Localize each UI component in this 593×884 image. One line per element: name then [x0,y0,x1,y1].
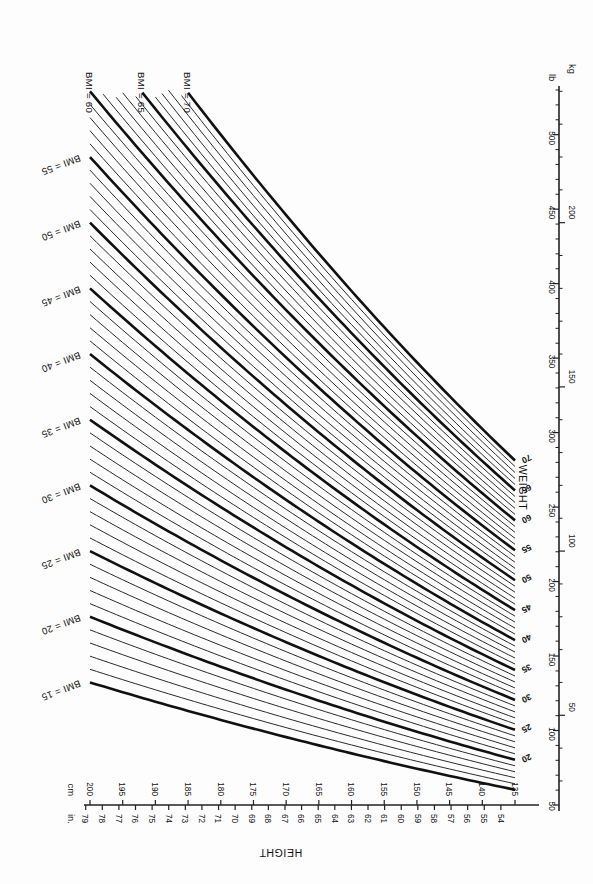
height-tick-label-cm: 140 [477,782,486,796]
height-tick-label-cm: 200 [85,782,94,796]
height-tick-label-in: 62 [363,814,372,824]
weight-tick-label-kg: 150 [567,370,576,384]
bmi-isolines-group [90,90,515,789]
height-tick-label-cm: 180 [216,782,225,796]
bmi-inline-label: BMI = 15 [40,678,82,703]
weight-tick-label-lb: 400 [547,280,556,294]
bmi-inline-label: BMI = 45 [40,284,82,309]
bmi-inline-label: BMI = 50 [40,218,82,243]
height-tick-label-cm: 145 [444,782,453,796]
bmi-isoline [90,249,515,592]
weight-tick-label-kg: 50 [567,703,576,713]
bmi-end-label: 35 [520,662,533,675]
weight-unit-lb: lb [547,74,558,81]
bmi-inline-label: BMI = 55 [40,153,82,178]
bmi-inline-label: BMI = 30 [40,481,82,506]
height-tick-label-cm: 175 [248,782,257,796]
height-tick-label-in: 59 [413,814,422,824]
bmi-isoline [90,446,515,682]
height-tick-label-cm: 190 [150,782,159,796]
height-tick-label-cm: 150 [412,782,421,796]
bmi-isoline [90,131,515,539]
weight-tick-label-lb: 350 [547,355,556,369]
bmi-end-label: 45 [520,602,533,615]
height-tick-label-in: 78 [97,814,106,824]
height-tick-label-in: 61 [379,814,388,824]
bmi-inline-label: BMI = 25 [40,547,82,572]
weight-tick-label-lb: 150 [547,653,556,667]
bmi-end-label: 20 [520,752,533,765]
weight-tick-label-kg: 200 [567,206,576,220]
height-tick-label-in: 55 [479,814,488,824]
bmi-isoline [188,93,515,461]
weight-tick-label-lb: 100 [547,727,556,741]
weight-tick-label-kg: 100 [567,534,576,548]
height-tick-label-in: 69 [247,814,256,824]
weight-tick-label-lb: 500 [547,131,556,145]
bmi-nomogram-figure: 2025303540455055606570 79787776757473727… [0,0,593,884]
bmi-isoline [90,590,515,747]
bmi-end-label: 25 [520,722,533,735]
bmi-isoline [90,315,515,622]
height-tick-label-in: 57 [446,814,455,824]
weight-tick-label-lb: 50 [547,802,556,812]
height-tick-label-cm: 195 [117,782,126,796]
height-tick-label-in: 74 [164,814,173,824]
height-tick-label-in: 77 [114,814,123,824]
height-tick-label-in: 58 [429,814,438,824]
bmi-end-label: 30 [520,692,533,705]
height-tick-label-in: 76 [130,814,139,824]
weight-tick-label-lb: 250 [547,504,556,518]
bmi-isoline [155,97,515,484]
bmi-end-label: 55 [520,542,533,555]
height-tick-label-in: 60 [396,814,405,824]
height-tick-label-in: 63 [346,814,355,824]
height-tick-label-in: 66 [296,814,305,824]
height-tick-label-in: 75 [147,814,156,824]
height-tick-label-cm: 185 [183,782,192,796]
bmi-end-label: 60 [520,512,533,525]
weight-tick-label-lb: 450 [547,206,556,220]
height-tick-label-in: 65 [313,814,322,824]
height-tick-label-in: 71 [213,814,222,824]
weight-axis-name: WEIGHT [517,465,529,511]
height-tick-label-cm: 165 [314,782,323,796]
weight-unit-kg: kg [567,64,578,74]
weight-tick-label-lb: 200 [547,578,556,592]
bmi-end-label: 40 [520,632,533,645]
bmi-isoline [90,682,515,789]
height-unit-cm: cm [66,784,77,797]
height-tick-label-cm: 155 [379,782,388,796]
height-tick-label-in: 56 [462,814,471,824]
bmi-end-label: 50 [520,572,533,585]
height-tick-label-in: 64 [330,814,339,824]
bmi-inline-label-top: BMI = 60 [84,72,95,113]
bmi-isoline [162,94,515,479]
bmi-nomogram-svg: 2025303540455055606570 79787776757473727… [0,0,593,884]
bmi-inline-label: BMI = 35 [40,415,82,440]
height-axis-name: HEIGHT [259,847,302,859]
height-axis-group: 7978777675747372717069686766656463626160… [66,782,539,859]
bmi-isoline [90,604,515,754]
height-tick-label-in: 54 [496,814,505,824]
height-tick-label-cm: 135 [510,782,519,796]
height-tick-label-in: 73 [180,814,189,824]
bmi-inline-label: BMI = 40 [40,350,82,375]
bmi-isoline [90,223,515,581]
height-unit-in: in. [66,814,77,824]
bmi-chart-page: 2025303540455055606570 79787776757473727… [0,0,593,884]
height-tick-label-in: 67 [280,814,289,824]
height-tick-label-in: 72 [197,814,206,824]
height-tick-label-cm: 170 [281,782,290,796]
bmi-isoline [90,288,515,610]
bmi-isoline [90,420,515,670]
bmi-inline-label-top: BMI = 70 [182,72,193,113]
height-tick-label-in: 68 [263,814,272,824]
bmi-inline-label-top: BMI = 65 [136,72,147,113]
height-tick-label-in: 79 [80,814,89,824]
height-tick-label-cm: 160 [346,782,355,796]
bmi-inline-label: BMI = 20 [40,613,82,638]
bmi-isoline [116,97,515,508]
height-tick-label-in: 70 [230,814,239,824]
weight-tick-label-lb: 300 [547,429,556,443]
